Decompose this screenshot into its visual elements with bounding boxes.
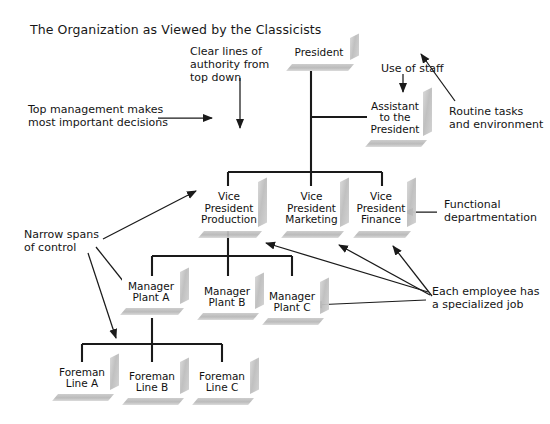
node-foreman-line-b[interactable]: Foreman Line B (124, 366, 180, 398)
node-assistant-to-president-label: Assistant to the President (367, 101, 423, 136)
annotation-narrow-spans-of-control: Narrow spans of control (24, 228, 99, 254)
annotation-clear-lines-of-authority: Clear lines of authority from top down (190, 45, 269, 84)
node-foreman-line-a-label: Foreman Line A (54, 367, 110, 390)
node-manager-plant-c[interactable]: Manager Plant C (264, 286, 320, 318)
arrow-specialized-vp-finance (393, 246, 432, 296)
node-vp-production[interactable]: Vice President Production (200, 186, 258, 231)
node-president[interactable]: President (288, 42, 350, 64)
node-president-label: President (295, 47, 344, 59)
node-foreman-line-c[interactable]: Foreman Line C (194, 366, 250, 398)
node-vp-marketing-label: Vice President Marketing (283, 191, 340, 226)
arrow-specialized-manager-c (313, 300, 426, 305)
node-manager-plant-a-label: Manager Plant A (122, 281, 180, 304)
arrow-narrow-spans-vp (103, 191, 196, 239)
arrow-narrow-spans-foreman (88, 253, 116, 338)
diagram-canvas: The Organization as Viewed by the Classi… (0, 0, 550, 424)
node-manager-plant-b[interactable]: Manager Plant B (199, 281, 255, 313)
annotation-top-management: Top management makes most important deci… (28, 103, 168, 129)
node-vp-marketing[interactable]: Vice President Marketing (283, 186, 340, 231)
diagram-title: The Organization as Viewed by the Classi… (30, 22, 321, 37)
annotation-use-of-staff: Use of staff (381, 62, 444, 75)
node-manager-plant-c-label: Manager Plant C (264, 291, 320, 314)
node-assistant-to-president[interactable]: Assistant to the President (367, 96, 423, 140)
node-foreman-line-c-label: Foreman Line C (194, 371, 250, 394)
node-manager-plant-b-label: Manager Plant B (199, 286, 255, 309)
annotation-specialized-job: Each employee has a specialized job (432, 285, 539, 311)
node-vp-finance-label: Vice President Finance (355, 191, 407, 226)
node-foreman-line-b-label: Foreman Line B (124, 371, 180, 394)
node-vp-production-label: Vice President Production (200, 191, 258, 226)
arrow-specialized-vp-marketing (339, 245, 430, 295)
node-manager-plant-a[interactable]: Manager Plant A (122, 276, 180, 308)
node-vp-finance[interactable]: Vice President Finance (355, 186, 407, 231)
annotation-routine-tasks: Routine tasks and environment (449, 105, 543, 131)
annotation-functional-departmentation: Functional departmentation (444, 198, 537, 224)
arrow-specialized-vp-production (266, 243, 428, 292)
node-foreman-line-a[interactable]: Foreman Line A (54, 362, 110, 394)
